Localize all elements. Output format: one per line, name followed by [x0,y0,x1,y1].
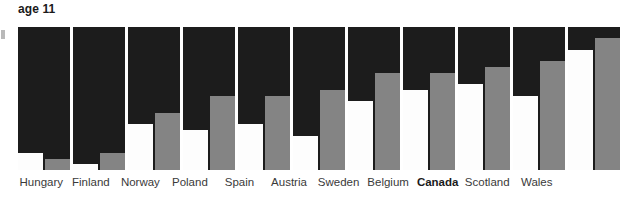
bar-group-white: 8 [238,27,263,170]
bar-grey: 14 [320,90,345,170]
bar-value-label: 10 [161,14,173,26]
chart-panel: 813 [238,27,290,170]
bar-value-label: 6 [302,14,308,26]
bar-white: 12 [348,101,373,170]
bar-value-label: 17 [381,14,393,26]
bar-value-label: 12 [354,14,366,26]
bar-grey: 13 [265,96,290,170]
bar-group-white: 15 [458,27,483,170]
chart-panel: 1518 [458,27,510,170]
bar-grey: 19 [540,61,565,170]
category-label-wales: Wales [513,175,560,193]
chart-panel: 810 [128,27,180,170]
bar-group-grey: 17 [430,27,455,170]
bar-value-label: 21 [574,14,586,26]
bar-group-white: 12 [348,27,373,170]
bar-group-white: 6 [293,27,318,170]
bar-grey: 23 [595,38,620,170]
bar-white: 21 [568,50,593,170]
bar-grey: 3 [100,153,125,170]
bar-grey: 13 [210,96,235,170]
bar-group-white: 21 [568,27,593,170]
bar-group-grey: 18 [485,27,510,170]
bar-group-grey: 13 [265,27,290,170]
bar-group-grey: 14 [320,27,345,170]
chart-panel: 32 [18,27,70,170]
bar-white: 15 [458,84,483,170]
bar-value-label: 14 [326,14,338,26]
chart-panel: 1319 [513,27,565,170]
bar-white: 3 [18,153,43,170]
bar-group-white: 14 [403,27,428,170]
category-label-spain: Spain [216,175,263,193]
bar-value-label: 13 [216,14,228,26]
bar-group-white: 3 [18,27,43,170]
category-label-canada: Canada [414,175,461,193]
bar-value-label: 8 [247,14,253,26]
bar-value-label: 19 [546,14,558,26]
category-label-hungary: Hungary [18,175,65,193]
bar-group-white: 8 [128,27,153,170]
category-label-finland: Finland [68,175,115,193]
chart-panel: 713 [183,27,235,170]
category-labels-row: HungaryFinlandNorwayPolandSpainAustriaSw… [18,175,560,193]
bar-value-label: 17 [436,14,448,26]
bar-grey: 10 [155,113,180,170]
bar-value-label: 13 [519,14,531,26]
bar-group-grey: 3 [100,27,125,170]
chart-panel: 1217 [348,27,400,170]
bar-value-label: 2 [54,14,60,26]
bar-group-white: 13 [513,27,538,170]
category-label-belgium: Belgium [365,175,412,193]
bar-white: 8 [238,124,263,170]
chart-panel: 1417 [403,27,455,170]
bar-value-label: 3 [109,14,115,26]
bar-group-grey: 19 [540,27,565,170]
bar-white: 8 [128,124,153,170]
category-label-austria: Austria [266,175,313,193]
category-label-sweden: Sweden [315,175,362,193]
bar-value-label: 23 [601,14,613,26]
bar-group-white: 1 [73,27,98,170]
bar-value-label: 7 [192,14,198,26]
category-label-scotland: Scotland [464,175,511,193]
category-label-norway: Norway [117,175,164,193]
bar-group-grey: 10 [155,27,180,170]
bar-group-grey: 23 [595,27,620,170]
bar-value-label: 14 [409,14,421,26]
bar-grey: 17 [430,73,455,170]
chart-panel: 13 [73,27,125,170]
bar-grey: 17 [375,73,400,170]
bar-group-grey: 2 [45,27,70,170]
bar-group-white: 7 [183,27,208,170]
bar-grey: 18 [485,67,510,170]
bar-group-grey: 13 [210,27,235,170]
category-label-poland: Poland [167,175,214,193]
bar-white: 6 [293,136,318,170]
edge-artifact-mark [1,30,5,39]
chart-panel: 2123 [568,27,620,170]
plot-area: 321381071381361412171417151813192123 [18,27,560,170]
bar-value-label: 3 [27,14,33,26]
chart-title: age 11 [18,2,55,16]
bar-value-label: 13 [271,14,283,26]
bar-value-label: 8 [137,14,143,26]
bar-white: 13 [513,96,538,170]
bar-white: 1 [73,164,98,170]
bar-value-label: 15 [464,14,476,26]
bar-grey: 2 [45,159,70,170]
bar-group-grey: 17 [375,27,400,170]
bar-value-label: 1 [82,14,88,26]
bar-white: 7 [183,130,208,170]
bar-value-label: 18 [491,14,503,26]
chart-panel: 614 [293,27,345,170]
bar-white: 14 [403,90,428,170]
